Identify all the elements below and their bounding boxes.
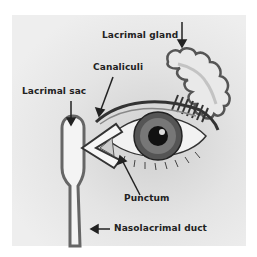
label-lacrimal-gland: Lacrimal gland <box>102 30 178 40</box>
label-punctum: Punctum <box>124 193 170 203</box>
label-nasolacrimal-duct: Nasolacrimal duct <box>114 223 207 233</box>
label-canaliculi: Canaliculi <box>93 62 143 72</box>
pupil <box>148 126 168 146</box>
label-lacrimal-sac: Lacrimal sac <box>22 86 86 96</box>
lacrimal-sac-shape <box>62 116 84 246</box>
